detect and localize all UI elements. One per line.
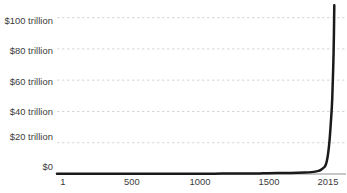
x-axis-tick-label: 1500 xyxy=(239,176,299,187)
gridlines xyxy=(57,18,346,143)
y-axis-tick-label: $100 trillion xyxy=(0,16,53,26)
y-axis-tick-label: $0 xyxy=(0,162,53,172)
gdp-line-chart: $100 trillion $80 trillion $60 trillion … xyxy=(0,0,347,193)
y-axis-tick-label: $60 trillion xyxy=(0,77,53,87)
series-line-world-gdp xyxy=(57,5,334,174)
plot-area xyxy=(57,2,346,174)
x-axis-tick-label: 2015 xyxy=(298,176,347,187)
x-axis-tick-label: 1 xyxy=(33,176,93,187)
y-axis-tick-label: $20 trillion xyxy=(0,132,53,142)
x-axis-tick-label: 1000 xyxy=(170,176,230,187)
x-axis-tick-label: 500 xyxy=(102,176,162,187)
y-axis-tick-label: $40 trillion xyxy=(0,107,53,117)
plot-svg xyxy=(57,2,346,174)
y-axis-tick-label: $80 trillion xyxy=(0,46,53,56)
series-world-gdp xyxy=(57,5,334,174)
